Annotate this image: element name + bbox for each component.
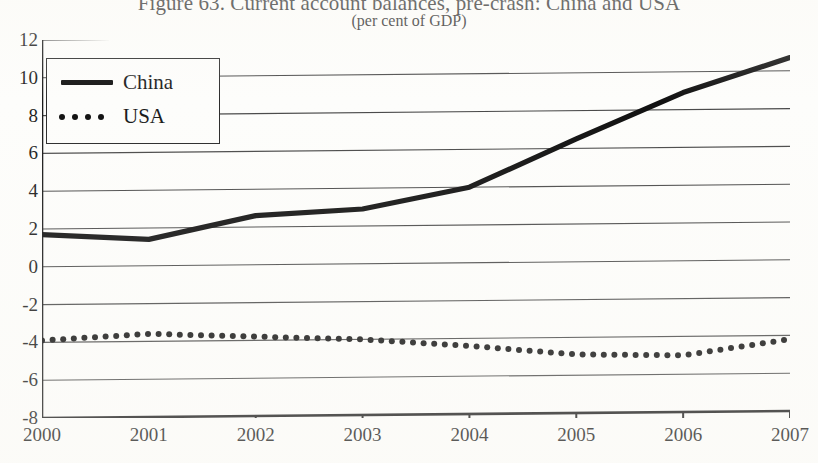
y-axis-labels: 121086420-2-4-6-8 — [0, 0, 38, 463]
y-tick-label: -6 — [0, 369, 38, 391]
legend-label-china: China — [123, 70, 173, 95]
legend-label-usa: USA — [123, 104, 165, 129]
y-tick-label: 6 — [0, 142, 38, 164]
x-tick-label: 2003 — [344, 424, 382, 446]
y-tick-label: 12 — [0, 29, 38, 51]
solid-line-icon — [57, 73, 115, 91]
x-tick-label: 2007 — [771, 424, 809, 446]
x-tick-label: 2004 — [450, 424, 488, 446]
y-tick-label: 10 — [0, 67, 38, 89]
figure-subtitle: (per cent of GDP) — [0, 12, 818, 30]
x-tick-label: 2005 — [557, 424, 595, 446]
figure-container: Figure 63. Current account balances, pre… — [0, 0, 818, 463]
legend-entry-china: China — [57, 67, 173, 97]
y-tick-label: 0 — [0, 256, 38, 278]
y-tick-label: -2 — [0, 294, 38, 316]
y-tick-label: 4 — [0, 180, 38, 202]
series-usa — [42, 331, 787, 358]
y-tick-label: -4 — [0, 331, 38, 353]
x-tick-label: 2000 — [23, 424, 61, 446]
x-tick-label: 2001 — [130, 424, 168, 446]
x-tick-label: 2002 — [237, 424, 275, 446]
dotted-line-icon — [57, 107, 115, 125]
legend-entry-usa: USA — [57, 101, 165, 131]
y-tick-label: 2 — [0, 218, 38, 240]
y-tick-label: 8 — [0, 105, 38, 127]
x-tick-label: 2006 — [664, 424, 702, 446]
legend-box: China USA — [46, 58, 220, 144]
